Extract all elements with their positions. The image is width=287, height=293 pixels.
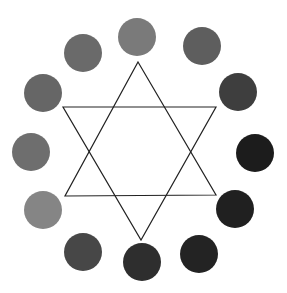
diagram-svg (0, 0, 287, 293)
gray-circle-8 (64, 233, 102, 271)
gray-circle-5 (216, 190, 254, 228)
gray-circle-1 (118, 18, 156, 56)
gray-circle-3 (219, 73, 257, 111)
gray-circle-12 (64, 34, 102, 72)
gray-circle-4 (236, 134, 274, 172)
gray-circle-11 (24, 74, 62, 112)
upward-triangle (65, 62, 216, 196)
gray-circle-6 (180, 235, 218, 273)
gray-circle-9 (24, 191, 62, 229)
gray-circle-2 (183, 27, 221, 65)
gray-circle-7 (123, 243, 161, 281)
circle-ring (12, 18, 274, 281)
color-circle-star-diagram (0, 0, 287, 293)
downward-triangle (63, 107, 216, 240)
gray-circle-10 (12, 133, 50, 171)
